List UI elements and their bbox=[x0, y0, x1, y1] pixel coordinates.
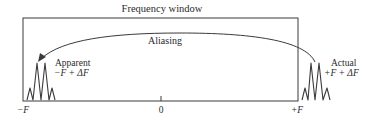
arrowhead-icon bbox=[38, 53, 46, 62]
axis-label-zero: 0 bbox=[159, 105, 164, 115]
axis-label-plus-f: +F bbox=[291, 105, 303, 115]
aliasing-diagram: Frequency window Aliasing Apparent −F + … bbox=[0, 0, 375, 125]
apparent-expression: −F + ΔF bbox=[54, 68, 89, 78]
actual-label: Actual bbox=[331, 58, 357, 68]
apparent-peaks bbox=[27, 63, 55, 100]
actual-expression: +F + ΔF bbox=[324, 68, 359, 78]
axis-label-minus-f: −F bbox=[17, 105, 29, 115]
aliasing-label: Aliasing bbox=[148, 35, 182, 46]
frequency-window-title: Frequency window bbox=[122, 3, 203, 14]
apparent-label: Apparent bbox=[55, 58, 91, 68]
